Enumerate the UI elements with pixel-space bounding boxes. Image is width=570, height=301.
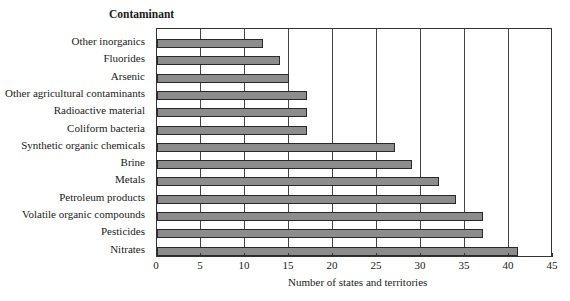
bar — [157, 39, 263, 48]
x-tick-mark — [244, 253, 245, 257]
bar — [157, 91, 307, 100]
category-label: Petroleum products — [59, 191, 145, 203]
bar — [157, 160, 412, 169]
x-tick-label: 5 — [197, 259, 203, 271]
x-tick-label: 40 — [503, 259, 514, 271]
x-tick-label: 35 — [459, 259, 470, 271]
bar — [157, 74, 289, 83]
category-label: Nitrates — [110, 243, 145, 255]
x-tick-mark — [200, 253, 201, 257]
x-tick-mark — [420, 253, 421, 257]
category-label: Radioactive material — [54, 104, 145, 116]
x-tick-label: 30 — [415, 259, 426, 271]
category-label: Synthetic organic chemicals — [21, 139, 145, 151]
bar — [157, 177, 439, 186]
bar — [157, 143, 395, 152]
category-label: Arsenic — [111, 70, 145, 82]
x-tick-label: 10 — [239, 259, 250, 271]
x-tick-mark — [464, 253, 465, 257]
bar — [157, 195, 456, 204]
bar — [157, 229, 483, 238]
category-label: Coliform bacteria — [67, 122, 145, 134]
x-tick-label: 25 — [371, 259, 382, 271]
category-label: Other inorganics — [72, 35, 145, 47]
chart-title: Contaminant — [109, 8, 174, 20]
x-tick-label: 15 — [283, 259, 294, 271]
x-axis-label: Number of states and territories — [288, 276, 427, 288]
x-tick-mark — [508, 253, 509, 257]
x-tick-mark — [156, 253, 157, 257]
x-tick-mark — [332, 253, 333, 257]
category-label: Pesticides — [101, 225, 145, 237]
x-tick-label: 0 — [153, 259, 159, 271]
gridline — [508, 29, 509, 256]
x-tick-label: 45 — [547, 259, 558, 271]
category-label: Fluorides — [103, 52, 145, 64]
x-tick-label: 20 — [327, 259, 338, 271]
category-label: Brine — [121, 156, 145, 168]
category-label: Volatile organic compounds — [22, 208, 145, 220]
bar — [157, 108, 307, 117]
category-label: Metals — [115, 173, 145, 185]
gridline — [420, 29, 421, 256]
gridline — [464, 29, 465, 256]
bar — [157, 56, 280, 65]
x-tick-mark — [288, 253, 289, 257]
x-tick-mark — [552, 253, 553, 257]
x-tick-mark — [376, 253, 377, 257]
bar — [157, 212, 483, 221]
plot-area — [156, 28, 552, 257]
category-label: Other agricultural contaminants — [5, 87, 145, 99]
bar — [157, 126, 307, 135]
